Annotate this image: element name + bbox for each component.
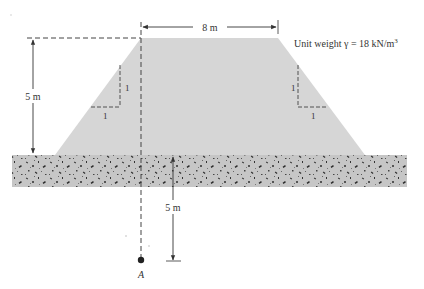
top-width-label: 8 m bbox=[202, 22, 218, 33]
depth-label: 5 m bbox=[165, 202, 181, 213]
point-a-label: A bbox=[137, 269, 145, 280]
height-label: 5 m bbox=[25, 91, 41, 102]
stray-mark bbox=[125, 235, 127, 237]
right-slope-horizontal-label: 1 bbox=[311, 111, 316, 121]
point-a-marker bbox=[138, 257, 144, 263]
stray-mark bbox=[10, 14, 12, 16]
right-slope-vertical-label: 1 bbox=[291, 83, 296, 93]
left-slope-vertical-label: 1 bbox=[125, 83, 130, 93]
stray-mark bbox=[148, 245, 150, 247]
embankment-diagram: 8 m 5 m Unit weight γ = 18 kN/m3 1 1 1 1… bbox=[0, 0, 424, 289]
embankment bbox=[55, 38, 365, 155]
soil-layer bbox=[12, 155, 407, 187]
left-slope-horizontal-label: 1 bbox=[103, 111, 108, 121]
unit-weight-label: Unit weight γ = 18 kN/m3 bbox=[294, 37, 398, 49]
